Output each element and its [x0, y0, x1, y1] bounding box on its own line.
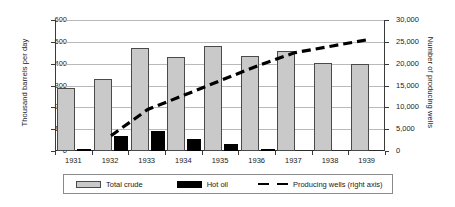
y-tick-mark-right — [385, 42, 389, 43]
y-tick-label-right: 0 — [396, 146, 436, 155]
y-tick-mark-right — [385, 86, 389, 87]
bar-hot-oil — [224, 144, 238, 151]
legend-swatch-producing-wells — [258, 181, 288, 188]
bar-total-crude — [204, 46, 222, 151]
bar-total-crude — [167, 57, 185, 151]
legend-swatch-hot-oil — [177, 181, 202, 188]
y-tick-mark-right — [385, 107, 389, 108]
gridline — [56, 42, 384, 43]
y-tick-label-right: 20,000 — [396, 59, 436, 68]
bar-total-crude — [241, 56, 259, 151]
y-tick-label-right: 25,000 — [396, 37, 436, 46]
chart-legend: Total crude Hot oil Producing wells (rig… — [63, 174, 393, 194]
x-tick-mark — [348, 151, 349, 155]
y-tick-label-right: 15,000 — [396, 81, 436, 90]
bar-hot-oil — [261, 149, 275, 151]
gridline — [56, 20, 384, 21]
legend-swatch-total-crude — [76, 181, 101, 188]
bar-total-crude — [57, 88, 75, 151]
bar-hot-oil — [114, 136, 128, 151]
legend-item-total-crude: Total crude — [76, 180, 143, 189]
x-tick-mark — [202, 151, 203, 155]
legend-label-producing-wells: Producing wells (right axis) — [293, 180, 383, 189]
bar-hot-oil — [151, 131, 165, 151]
x-tick-label: 1939 — [345, 156, 389, 165]
plot-area — [55, 20, 385, 151]
legend-label-hot-oil: Hot oil — [207, 180, 228, 189]
bar-total-crude — [314, 63, 332, 151]
legend-item-producing-wells: Producing wells (right axis) — [258, 180, 383, 189]
bar-hot-oil — [187, 139, 201, 151]
y-tick-label-right: 10,000 — [396, 102, 436, 111]
bar-hot-oil — [77, 149, 91, 151]
bar-total-crude — [277, 51, 295, 151]
x-tick-mark — [275, 151, 276, 155]
bar-total-crude — [131, 48, 149, 151]
bar-total-crude — [351, 64, 369, 151]
x-tick-mark — [165, 151, 166, 155]
x-tick-mark — [128, 151, 129, 155]
y-tick-mark-right — [385, 64, 389, 65]
y-tick-label-right: 5,000 — [396, 124, 436, 133]
x-tick-mark — [55, 151, 56, 155]
x-tick-mark — [312, 151, 313, 155]
x-tick-mark — [238, 151, 239, 155]
y-axis-left-title: Thousand barrels per day — [20, 13, 29, 153]
x-tick-mark — [92, 151, 93, 155]
y-tick-mark-right — [385, 20, 389, 21]
y-tick-mark-right — [385, 129, 389, 130]
legend-label-total-crude: Total crude — [106, 180, 143, 189]
bar-total-crude — [94, 79, 112, 151]
y-tick-label-right: 30,000 — [396, 15, 436, 24]
legend-item-hot-oil: Hot oil — [177, 180, 228, 189]
chart-figure: Thousand barrels per day Number of produ… — [0, 0, 455, 207]
x-tick-mark — [385, 151, 386, 155]
